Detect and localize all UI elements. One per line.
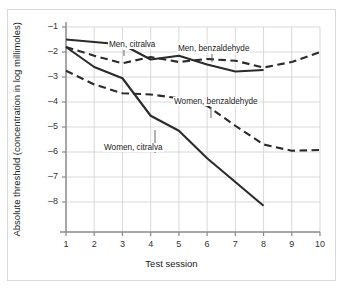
- y-tick-label: –3: [38, 71, 58, 81]
- series-annotation: Women, benzaldehyde: [173, 97, 259, 106]
- chart-figure: Absolute threshold (concentration in log…: [0, 0, 343, 289]
- x-tick-label: 6: [197, 239, 217, 249]
- x-axis-title: Test session: [0, 258, 343, 269]
- series-annotation: Men, benzaldehyde: [177, 44, 250, 53]
- y-axis-title: Absolute threshold (concentration in log…: [11, 37, 22, 237]
- x-tick-label: 5: [169, 239, 189, 249]
- x-tick-label: 4: [141, 239, 161, 249]
- series-line-women-benzaldehyde: [66, 71, 320, 151]
- y-tick-label: –4: [38, 96, 58, 106]
- x-tick-label: 2: [84, 239, 104, 249]
- x-tick-label: 1: [56, 239, 76, 249]
- series-annotation: Men, citralva: [108, 40, 156, 49]
- series-annotation: Women, citralva: [103, 143, 164, 152]
- y-tick-label: –6: [38, 146, 58, 156]
- x-tick-label: 8: [254, 239, 274, 249]
- x-tick-label: 3: [112, 239, 132, 249]
- x-tick-label: 9: [282, 239, 302, 249]
- y-tick-label: –7: [38, 171, 58, 181]
- y-tick-label: –2: [38, 46, 58, 56]
- data-series-group: [66, 40, 320, 206]
- x-tick-label: 10: [310, 239, 330, 249]
- x-tick-label: 7: [225, 239, 245, 249]
- y-tick-label: –1: [38, 21, 58, 31]
- y-tick-label: –8: [38, 196, 58, 206]
- y-tick-label: –5: [38, 121, 58, 131]
